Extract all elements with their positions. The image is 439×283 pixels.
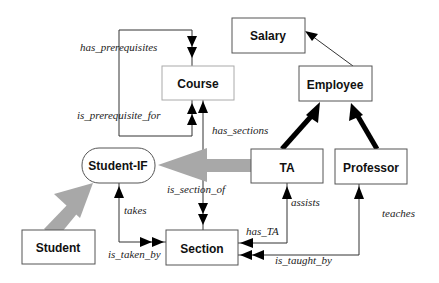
double-arrow-head-icon (187, 114, 197, 125)
label-is-section-of: is_section_of (167, 183, 227, 195)
node-professor[interactable]: Professor (335, 149, 407, 184)
node-course-label: Course (177, 77, 219, 91)
label-has-ta: has_TA (246, 225, 279, 237)
node-section[interactable]: Section (166, 230, 238, 265)
label-has-prerequisites: has_prerequisites (80, 41, 157, 53)
double-arrow-head-icon (187, 36, 197, 47)
node-section-label: Section (180, 242, 223, 256)
label-is-taken-by: is_taken_by (108, 248, 161, 260)
node-employee[interactable]: Employee (299, 66, 372, 101)
node-ta-label: TA (279, 161, 294, 175)
node-course[interactable]: Course (162, 66, 234, 100)
node-student-label: Student (36, 241, 81, 255)
node-student-if[interactable]: Student-IF (82, 148, 155, 183)
ta-isa-employee-edge (282, 102, 320, 149)
odl-schema-diagram: Salary Course Employee Student-IF TA Pro… (0, 0, 439, 283)
employee-salary-edge (305, 31, 353, 66)
double-arrow-head-icon (187, 47, 197, 58)
node-salary-label: Salary (250, 29, 286, 43)
node-salary[interactable]: Salary (232, 18, 305, 53)
label-teaches: teaches (382, 207, 415, 219)
ta-implements-student-if-edge (158, 148, 251, 182)
ta-section-edge (238, 183, 292, 248)
label-takes: takes (124, 204, 147, 216)
node-ta[interactable]: TA (251, 149, 323, 183)
label-has-sections: has_sections (212, 124, 268, 136)
node-student[interactable]: Student (22, 230, 95, 264)
label-assists: assists (291, 196, 320, 208)
label-is-taught-by: is_taught_by (275, 254, 332, 266)
node-employee-label: Employee (307, 78, 364, 92)
professor-isa-employee-edge (349, 103, 377, 149)
node-professor-label: Professor (343, 161, 399, 175)
node-student-if-label: Student-IF (88, 159, 147, 173)
double-arrow-head-icon (187, 103, 197, 114)
label-is-prerequisite-for: is_prerequisite_for (77, 109, 161, 121)
